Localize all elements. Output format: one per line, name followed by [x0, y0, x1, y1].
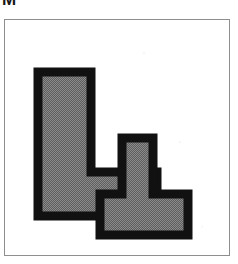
figure-page: M: [0, 0, 238, 264]
figure-frame: [4, 19, 230, 256]
shapes-diagram: [5, 20, 229, 255]
figure-label: M: [2, 0, 16, 8]
